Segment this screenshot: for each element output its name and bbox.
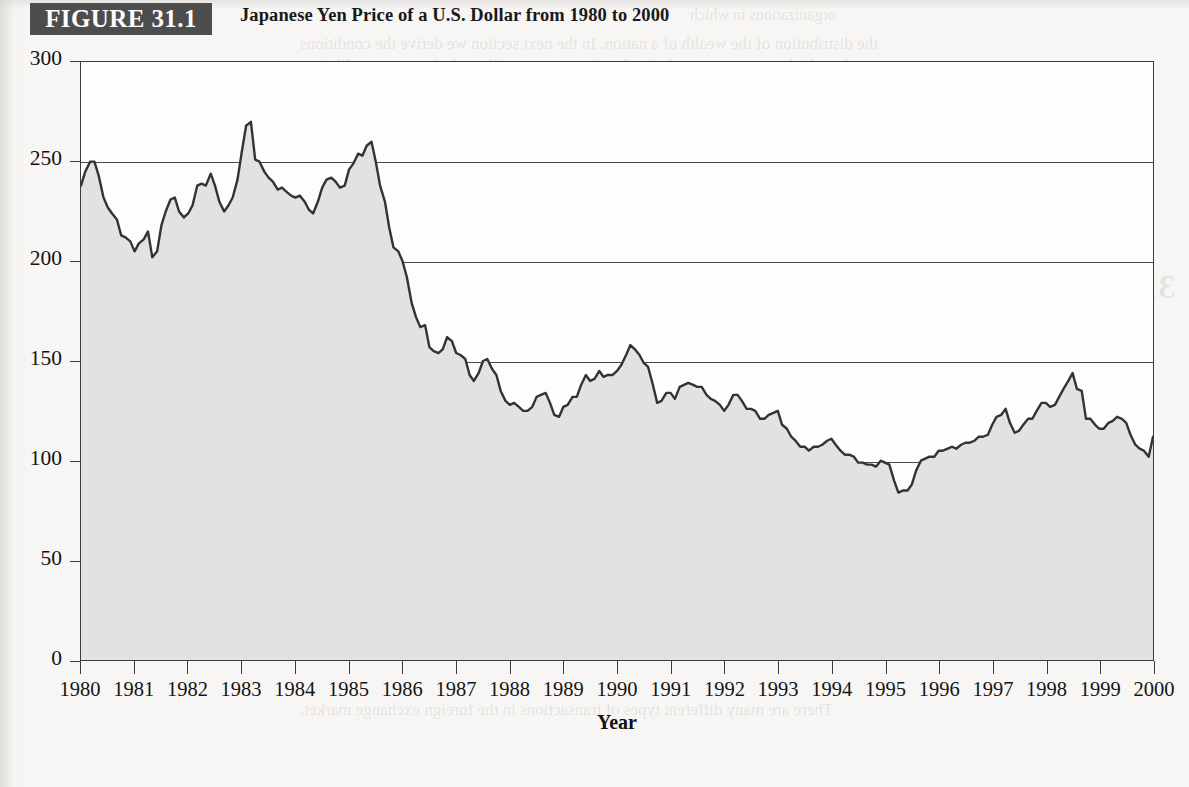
y-tick-mark	[70, 61, 80, 62]
x-tick-label: 1999	[1080, 678, 1121, 701]
x-tick-label: 1980	[60, 678, 101, 701]
figure-header: FIGURE 31.1 Japanese Yen Price of a U.S.…	[18, 3, 1178, 37]
x-tick-label: 1988	[489, 678, 530, 701]
x-tick-mark	[617, 661, 618, 674]
x-tick-label: 1994	[811, 678, 852, 701]
x-tick-label: 1987	[435, 678, 476, 701]
x-tick-label: 1982	[167, 678, 208, 701]
x-tick-label: 1984	[274, 678, 315, 701]
y-tick-label: 0	[0, 648, 62, 670]
x-tick-mark	[510, 661, 511, 674]
x-tick-label: 1986	[382, 678, 423, 701]
x-tick-mark	[295, 661, 296, 674]
y-tick-label: 100	[0, 448, 62, 470]
x-tick-mark	[349, 661, 350, 674]
y-axis: 050100150200250300	[0, 38, 80, 684]
chart: 050100150200250300 Year 1980198119821983…	[0, 38, 1189, 787]
x-tick-label: 1985	[328, 678, 369, 701]
x-tick-mark	[563, 661, 564, 674]
y-tick-mark	[70, 561, 80, 562]
x-tick-label: 1996	[919, 678, 960, 701]
x-tick-mark	[939, 661, 940, 674]
x-tick-label: 1992	[704, 678, 745, 701]
exchange-rate-series	[81, 62, 1153, 660]
x-tick-mark	[1154, 661, 1155, 674]
x-tick-label: 1989	[543, 678, 584, 701]
y-tick-label: 150	[0, 348, 62, 370]
x-tick-label: 1983	[221, 678, 262, 701]
y-tick-label: 250	[0, 148, 62, 170]
x-tick-mark	[778, 661, 779, 674]
x-tick-mark	[134, 661, 135, 674]
x-tick-mark	[80, 661, 81, 674]
y-tick-label: 300	[0, 48, 62, 70]
x-tick-mark	[886, 661, 887, 674]
x-tick-mark	[402, 661, 403, 674]
y-tick-label: 50	[0, 548, 62, 570]
x-tick-label: 1981	[113, 678, 154, 701]
x-tick-mark	[993, 661, 994, 674]
x-tick-label: 2000	[1134, 678, 1175, 701]
x-tick-mark	[1100, 661, 1101, 674]
x-tick-label: 1995	[865, 678, 906, 701]
figure-number-badge: FIGURE 31.1	[30, 3, 212, 35]
x-tick-label: 1998	[1026, 678, 1067, 701]
x-tick-label: 1993	[758, 678, 799, 701]
x-tick-label: 1997	[972, 678, 1013, 701]
y-tick-mark	[70, 461, 80, 462]
x-tick-mark	[1047, 661, 1048, 674]
y-tick-mark	[70, 661, 80, 662]
y-tick-mark	[70, 361, 80, 362]
x-tick-mark	[241, 661, 242, 674]
x-tick-mark	[456, 661, 457, 674]
x-axis: Year 19801981198219831984198519861987198…	[80, 661, 1154, 781]
x-tick-mark	[832, 661, 833, 674]
x-tick-mark	[187, 661, 188, 674]
figure-title: Japanese Yen Price of a U.S. Dollar from…	[240, 5, 669, 26]
y-tick-mark	[70, 161, 80, 162]
y-tick-label: 200	[0, 248, 62, 270]
x-tick-mark	[724, 661, 725, 674]
x-tick-label: 1990	[597, 678, 638, 701]
y-tick-mark	[70, 261, 80, 262]
plot-area	[80, 61, 1154, 661]
page-background: organizations in which the distribution …	[0, 0, 1189, 787]
x-tick-mark	[671, 661, 672, 674]
x-tick-label: 1991	[650, 678, 691, 701]
x-axis-title: Year	[597, 711, 637, 734]
